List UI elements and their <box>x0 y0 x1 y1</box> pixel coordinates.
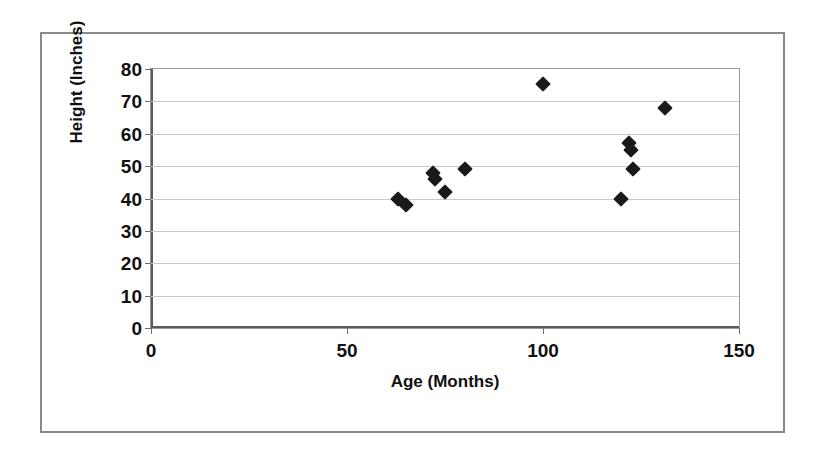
data-point <box>457 162 473 178</box>
y-axis-title: Height (Inches) <box>63 0 91 213</box>
y-tick-mark <box>145 199 151 200</box>
x-axis-title: Age (Months) <box>150 372 740 392</box>
gridline <box>151 166 739 167</box>
chart-screenshot: 01020304050607080 050100150 Age (Months)… <box>0 0 824 453</box>
y-tick-mark <box>145 134 151 135</box>
y-tick-mark <box>145 296 151 297</box>
data-point <box>437 184 453 200</box>
y-tick-mark <box>145 69 151 70</box>
x-tick-mark <box>739 328 740 334</box>
data-point <box>625 162 641 178</box>
plot-area: 01020304050607080 050100150 <box>150 68 740 329</box>
y-tick-mark <box>145 231 151 232</box>
y-tick-label: 30 <box>121 221 142 240</box>
y-tick-mark <box>145 263 151 264</box>
x-tick-mark <box>347 328 348 334</box>
x-tick-label: 100 <box>527 341 559 360</box>
x-tick-label: 0 <box>146 341 157 360</box>
chart-outer-frame: 01020304050607080 050100150 Age (Months)… <box>40 32 785 433</box>
x-tick-label: 50 <box>336 341 357 360</box>
data-point <box>614 191 630 207</box>
y-tick-mark <box>145 166 151 167</box>
gridline <box>151 296 739 297</box>
x-tick-mark <box>543 328 544 334</box>
gridline <box>151 231 739 232</box>
y-tick-mark <box>145 101 151 102</box>
y-tick-label: 50 <box>121 157 142 176</box>
x-tick-mark <box>151 328 152 334</box>
data-point <box>657 100 673 116</box>
y-tick-label: 60 <box>121 124 142 143</box>
x-axis-line <box>151 326 739 328</box>
y-tick-label: 40 <box>121 189 142 208</box>
data-point <box>535 76 551 92</box>
gridline <box>151 101 739 102</box>
gridline <box>151 263 739 264</box>
y-tick-label: 80 <box>121 60 142 79</box>
y-tick-label: 10 <box>121 286 142 305</box>
y-tick-label: 20 <box>121 254 142 273</box>
y-tick-label: 70 <box>121 92 142 111</box>
y-tick-label: 0 <box>131 319 142 338</box>
gridline <box>151 134 739 135</box>
x-tick-label: 150 <box>723 341 755 360</box>
